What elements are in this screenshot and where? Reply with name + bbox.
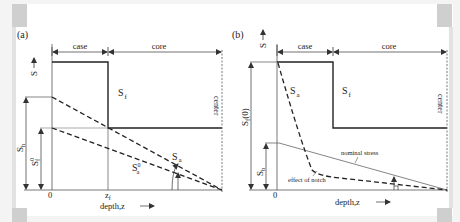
panel-a-label: (a) [17, 29, 28, 41]
svg-text:Sf(0): Sf(0) [240, 108, 251, 126]
center-label-group: center [436, 94, 445, 114]
case-label: case [73, 41, 88, 51]
panel-b-s-axis-label: S [258, 43, 268, 48]
core-label: core [382, 41, 397, 51]
svg-text:S0f: S0f [29, 158, 41, 166]
center-label: center [212, 96, 221, 116]
depth-label: depth,z [335, 197, 360, 207]
sa0-label: S0a [132, 162, 141, 175]
panel-a: (a) S case core Sf center Sh [15, 29, 222, 211]
sa-curve [52, 97, 222, 190]
zero-label: 0 [273, 190, 277, 200]
sf0-label: Sf(0) [240, 108, 251, 126]
zero-label: 0 [48, 190, 52, 200]
svg-text:Sh: Sh [15, 143, 26, 152]
nominal-stress-label: nominal stress [341, 149, 379, 156]
sa0-curve [52, 128, 222, 190]
zf-label: zf [105, 190, 111, 201]
diagram-svg: (a) S case core Sf center Sh [0, 0, 460, 222]
notch-effect-label: effect of notch [288, 176, 327, 183]
sb-label: Sb [255, 168, 266, 176]
sa-label: Sa [172, 151, 183, 164]
center-label: center [436, 94, 445, 114]
svg-text:Sb: Sb [255, 168, 266, 176]
core-label: core [152, 41, 167, 51]
nominal-stress-leader [355, 157, 358, 163]
sh-label: Sh [15, 143, 26, 152]
sf-label: Sf [118, 87, 128, 101]
panel-b: (b) S case core Sf center Sf(0) [232, 29, 448, 207]
sa-label: Sa [290, 85, 301, 99]
sf0-label: S0f [29, 158, 41, 166]
depth-label: depth,z [100, 201, 125, 211]
case-label: case [298, 41, 313, 51]
sa-pointer-bracket [394, 186, 398, 190]
sa-pointer-arrow [172, 164, 178, 190]
sf-profile [52, 62, 222, 128]
panel-b-label: (b) [232, 29, 244, 41]
center-label-group: center [212, 96, 221, 116]
s-axis-text: S [29, 71, 39, 76]
sf-label: Sf [342, 85, 352, 99]
sa-curve [278, 63, 447, 190]
sf-profile [277, 62, 447, 128]
panel-a-s-axis-label: S [29, 71, 39, 76]
s-axis-text: S [258, 43, 268, 48]
